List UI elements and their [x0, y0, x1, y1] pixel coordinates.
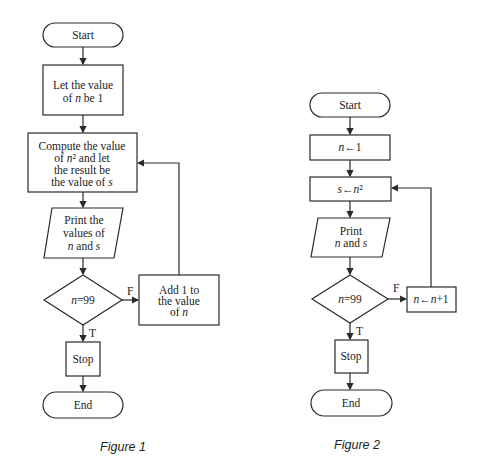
fig1-loop-arrow — [138, 163, 179, 275]
fig1-true-label: T — [89, 327, 96, 339]
figure-1: Start Let the value of n be 1 Compute th… — [28, 23, 219, 454]
svg-text:of n: of n — [170, 306, 188, 318]
fig2-loop-arrow — [392, 188, 431, 287]
fig1-end-terminal: End — [43, 392, 123, 418]
fig1-false-label: F — [127, 285, 133, 297]
fig1-init-box: Let the value of n be 1 — [43, 65, 123, 115]
fig1-caption: Figure 1 — [100, 440, 146, 454]
fig2-increment-box: n←n+1 — [407, 287, 456, 312]
fig1-start-terminal: Start — [43, 23, 123, 47]
svg-text:of n² and let: of n² and let — [54, 152, 110, 164]
fig2-compute-box: s←n² — [310, 177, 391, 201]
fig2-true-label: T — [356, 325, 363, 337]
svg-text:n=99: n=99 — [338, 293, 362, 305]
svg-text:Print the: Print the — [64, 214, 103, 226]
svg-text:Stop: Stop — [72, 353, 93, 366]
fig2-init-box: n←1 — [310, 135, 390, 160]
svg-text:n=99: n=99 — [71, 294, 95, 306]
svg-text:values of: values of — [63, 227, 105, 239]
fig2-start-terminal: Start — [310, 93, 390, 117]
fig2-decision: n=99 — [312, 275, 388, 323]
fig2-stop-box: Stop — [335, 340, 368, 373]
fig2-end-terminal: End — [311, 390, 392, 416]
svg-text:n←1: n←1 — [339, 141, 362, 153]
svg-text:End: End — [74, 399, 93, 411]
svg-text:of n be 1: of n be 1 — [63, 92, 104, 104]
svg-text:End: End — [342, 397, 361, 409]
svg-text:n←n+1: n←n+1 — [413, 293, 448, 305]
fig2-false-label: F — [393, 282, 399, 294]
fig1-decision: n=99 — [44, 275, 122, 325]
svg-text:Print: Print — [340, 225, 363, 237]
svg-text:n and s: n and s — [335, 237, 368, 249]
svg-text:n and s: n and s — [68, 240, 101, 252]
svg-text:Let the value: Let the value — [53, 79, 113, 91]
fig1-stop-box: Stop — [66, 342, 100, 376]
svg-text:Start: Start — [72, 29, 95, 41]
flowcharts: Start Let the value of n be 1 Compute th… — [0, 0, 480, 464]
fig1-compute-box: Compute the value of n² and let the resu… — [28, 133, 137, 192]
svg-text:s←n²: s←n² — [337, 183, 363, 195]
svg-text:Stop: Stop — [340, 350, 361, 363]
fig2-print-io: Print n and s — [311, 218, 390, 257]
svg-text:Start: Start — [339, 99, 362, 111]
figure-2: Start n←1 s←n² Print n and s n=99 F — [310, 93, 456, 452]
svg-text:the value of s: the value of s — [51, 176, 113, 188]
fig2-caption: Figure 2 — [334, 438, 380, 452]
fig1-print-io: Print the values of n and s — [44, 208, 123, 258]
fig1-increment-box: Add 1 to the value of n — [139, 275, 219, 325]
svg-text:the result be: the result be — [54, 164, 110, 176]
